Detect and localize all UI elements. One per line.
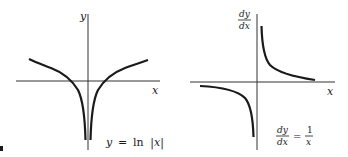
right-curve-positive-branch [262, 26, 316, 80]
left-curve-left-branch [29, 59, 86, 140]
right-y-label-den: dx [239, 21, 250, 31]
left-y-label: y [79, 10, 87, 23]
right-eq-rhs-den: x [306, 137, 311, 147]
right-x-label: x [327, 85, 334, 98]
right-eq-den: dx [277, 137, 288, 147]
right-eq-equals: = [293, 131, 301, 142]
left-equation: y = ln |x| [105, 136, 164, 150]
right-curve-negative-branch [200, 86, 254, 137]
left-plot: y x y = ln |x| [16, 10, 164, 150]
left-curve-right-branch [91, 60, 149, 140]
edge-mark [0, 146, 3, 151]
right-y-label-num: dy [239, 9, 251, 19]
right-eq-num: dy [277, 125, 289, 135]
right-eq-rhs-num: 1 [307, 125, 313, 135]
right-plot: dy dx x dy dx = 1 x [190, 9, 335, 150]
left-x-label: x [152, 84, 159, 97]
figure: y x y = ln |x| dy dx x dy dx = 1 x [0, 0, 348, 157]
